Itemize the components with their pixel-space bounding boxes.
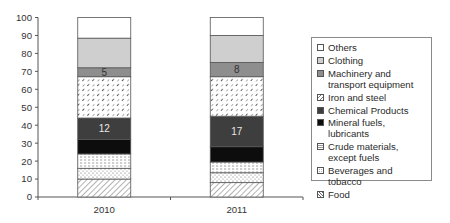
legend-item: Food bbox=[317, 189, 428, 200]
bar-segment bbox=[210, 173, 263, 183]
data-label: 8 bbox=[234, 64, 240, 75]
legend: OthersClothingMachinery and transport eq… bbox=[311, 37, 432, 181]
y-tick-label: 40 bbox=[21, 120, 32, 131]
bar-segment bbox=[78, 140, 131, 154]
data-label: 17 bbox=[231, 126, 243, 137]
bar-segment bbox=[78, 77, 131, 118]
bar-segment bbox=[210, 162, 263, 173]
legend-swatch-icon bbox=[317, 57, 324, 64]
legend-item: Crude materials, except fuels bbox=[317, 141, 428, 163]
legend-item: Beverages and tobacco bbox=[317, 165, 428, 187]
legend-item: Others bbox=[317, 42, 428, 53]
bar-2011: 178 bbox=[210, 18, 263, 198]
y-tick-label: 100 bbox=[16, 12, 32, 23]
legend-swatch-icon bbox=[317, 119, 324, 126]
legend-label: Crude materials, except fuels bbox=[328, 141, 428, 163]
bar-segment bbox=[210, 77, 263, 116]
legend-swatch-icon bbox=[317, 143, 324, 150]
y-tick-label: 80 bbox=[21, 48, 32, 59]
legend-label: Beverages and tobacco bbox=[328, 165, 428, 187]
bar-segment bbox=[78, 18, 131, 39]
y-tick-label: 0 bbox=[27, 191, 32, 202]
x-axis: 20102011 bbox=[38, 197, 303, 215]
data-label: 12 bbox=[99, 123, 111, 134]
legend-swatch-icon bbox=[317, 70, 324, 77]
bar-segment bbox=[78, 154, 131, 168]
bars: 125178 bbox=[78, 18, 264, 198]
legend-swatch-icon bbox=[317, 167, 324, 174]
bar-segment bbox=[78, 168, 131, 179]
legend-label: Machinery and transport equipment bbox=[328, 68, 428, 90]
data-label: 5 bbox=[101, 67, 107, 78]
legend-label: Mineral fuels, lubricants bbox=[328, 117, 428, 139]
bar-segment bbox=[210, 18, 263, 36]
bar-2010: 125 bbox=[78, 18, 131, 198]
legend-swatch-icon bbox=[317, 107, 324, 114]
legend-label: Chemical Products bbox=[328, 105, 409, 116]
legend-swatch-icon bbox=[317, 94, 324, 101]
y-tick-label: 90 bbox=[21, 30, 32, 41]
legend-item: Mineral fuels, lubricants bbox=[317, 117, 428, 139]
legend-label: Food bbox=[328, 189, 350, 200]
x-tick-label: 2010 bbox=[94, 204, 115, 215]
legend-swatch-icon bbox=[317, 191, 324, 198]
bar-segment bbox=[210, 183, 263, 197]
legend-item: Iron and steel bbox=[317, 92, 428, 103]
bar-segment bbox=[78, 38, 131, 68]
legend-label: Iron and steel bbox=[328, 92, 386, 103]
legend-label: Others bbox=[328, 42, 357, 53]
legend-label: Clothing bbox=[328, 55, 363, 66]
legend-item: Chemical Products bbox=[317, 105, 428, 116]
y-tick-label: 50 bbox=[21, 102, 32, 113]
x-tick-label: 2011 bbox=[226, 204, 247, 215]
bar-segment bbox=[210, 35, 263, 62]
bar-segment bbox=[78, 179, 131, 197]
y-tick-label: 30 bbox=[21, 138, 32, 149]
bar-segment bbox=[210, 147, 263, 162]
legend-item: Machinery and transport equipment bbox=[317, 68, 428, 90]
legend-item: Clothing bbox=[317, 55, 428, 66]
legend-swatch-icon bbox=[317, 44, 324, 51]
y-tick-label: 70 bbox=[21, 66, 32, 77]
y-tick-label: 60 bbox=[21, 84, 32, 95]
y-tick-label: 20 bbox=[21, 156, 32, 167]
y-axis: 0102030405060708090100 bbox=[16, 12, 38, 203]
y-tick-label: 10 bbox=[21, 173, 32, 184]
